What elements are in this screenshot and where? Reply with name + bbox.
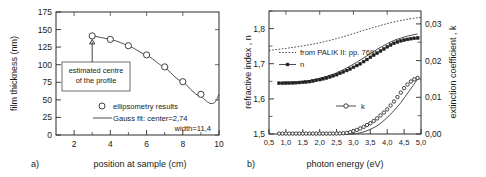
panel-b-ytick-left-180: 1,8: [253, 24, 265, 34]
panel-a-point-4: [144, 52, 150, 58]
panel-a-label: a): [31, 159, 39, 169]
panel-a-legend-label-width: width=11,4: [174, 124, 211, 133]
panel-a-xtick-6: 6: [144, 139, 149, 149]
panel-b-ytick-right-003: 0,03: [425, 19, 442, 29]
panel-a-point-5: [162, 64, 168, 70]
panel-b-axes-frame: [269, 11, 421, 134]
panel-b-n-markers: [278, 37, 419, 85]
panel-b-y-ticklabels-left: 1,5 1,6 1,7 1,8: [253, 24, 265, 139]
panel-a-point-2: [107, 36, 113, 42]
panel-b-xtick-5: 3,0: [348, 138, 359, 147]
panel-a-xtick-8: 8: [180, 139, 185, 149]
panel-b-ytick-left-170: 1,7: [253, 59, 265, 69]
panel-b-xtick-8: 4,5: [399, 138, 410, 147]
panel-a-xtick-10: 10: [214, 139, 224, 149]
panel-a-legend: ellipsometry results Gauss fit: center=2…: [93, 102, 211, 133]
panel-a-point-6: [180, 79, 186, 85]
panel-b-y-axis-label-left: refractive index , n: [243, 35, 253, 109]
figure-container: 0 25 50 75 100 125 150 175: [0, 0, 486, 177]
panel-b-y-ticklabels-right: 0,00 0,01 0,02 0,03: [425, 19, 442, 139]
panel-a-legend-label-gaussfit: Gauss fit: center=2,74: [113, 114, 188, 123]
panel-b: 1,5 1,6 1,7 1,8 0,00 0,01 0,02 0,03: [243, 0, 486, 177]
panel-a-x-axis-label: position at sample (cm): [93, 159, 186, 169]
panel-b-y-ticks-left: [269, 11, 274, 134]
panel-b-xtick-3: 2,0: [314, 138, 325, 147]
panel-a-point-3: [125, 43, 131, 49]
panel-b-ytick-left-160: 1,6: [253, 94, 265, 104]
panel-b-legend-palik: from PALIK II: pp. 769: [279, 48, 374, 57]
panel-a-plot: 0 25 50 75 100 125 150 175: [0, 0, 243, 177]
panel-a-y-ticklabels: 0 25 50 75 100 125 150 175: [38, 7, 52, 140]
panel-b-xtick-1: 1,0: [281, 138, 292, 147]
panel-a-annotation-line2: of the profile: [76, 76, 117, 85]
panel-a-xtick-2: 2: [72, 139, 77, 149]
panel-b-legend-k: k: [336, 102, 365, 111]
panel-b-legend-label-k: k: [361, 102, 365, 111]
panel-b-legend-n: n: [279, 60, 304, 69]
panel-a-ytick-100: 100: [38, 60, 52, 70]
panel-b-palik-curve: [269, 17, 421, 50]
panel-a-ytick-125: 125: [38, 42, 52, 52]
panel-b-ytick-right-000: 0,00: [425, 129, 442, 139]
panel-b-x-ticklabels: 0,5 1,0 1,5 2,0 2,5 3,0 3,5 4,0 4,5 5,0: [264, 138, 427, 147]
panel-a-annotation-line1: estimated centre: [69, 66, 124, 75]
panel-a-xtick-4: 4: [108, 139, 113, 149]
panel-a-point-7: [198, 91, 204, 97]
panel-b-plot: 1,5 1,6 1,7 1,8 0,00 0,01 0,02 0,03: [243, 0, 486, 177]
panel-b-legend-label-palik: from PALIK II: pp. 769: [300, 48, 374, 57]
panel-a-x-ticklabels: 2 4 6 8 10: [72, 139, 224, 149]
panel-b-xtick-0: 0,5: [264, 138, 275, 147]
panel-b-ytick-right-002: 0,02: [425, 56, 442, 66]
panel-a-ytick-0: 0: [47, 130, 52, 140]
panel-b-legend-marker-k: [344, 104, 348, 108]
panel-a-ytick-50: 50: [43, 95, 53, 105]
panel-a-ytick-75: 75: [43, 77, 53, 87]
panel-a-point-1: [89, 33, 95, 39]
panel-a-ytick-150: 150: [38, 25, 52, 35]
panel-a-legend-label-ellipsometry: ellipsometry results: [113, 102, 178, 111]
panel-a-y-axis-label: film thickness (nm): [9, 36, 19, 111]
panel-b-xtick-7: 4,0: [382, 138, 393, 147]
panel-a-ytick-175: 175: [38, 7, 52, 17]
panel-b-legend-label-n: n: [300, 60, 304, 69]
panel-b-xtick-4: 2,5: [331, 138, 342, 147]
panel-b-legend-marker-n: [286, 63, 289, 66]
panel-b-label: b): [247, 159, 255, 169]
panel-b-ytick-right-001: 0,01: [425, 92, 442, 102]
panel-b-x-axis-label: photon energy (eV): [306, 159, 383, 169]
panel-a-ytick-25: 25: [43, 112, 53, 122]
panel-b-x-ticks: [269, 11, 421, 134]
panel-b-xtick-2: 1,5: [298, 138, 309, 147]
panel-b-y-axis-label-right: extinction coefficient , k: [448, 25, 458, 118]
panel-b-xtick-6: 3,5: [365, 138, 376, 147]
panel-b-xtick-9: 5,0: [416, 138, 427, 147]
panel-a-legend-marker-ellipsometry: [99, 103, 105, 109]
panel-a: 0 25 50 75 100 125 150 175: [0, 0, 243, 177]
